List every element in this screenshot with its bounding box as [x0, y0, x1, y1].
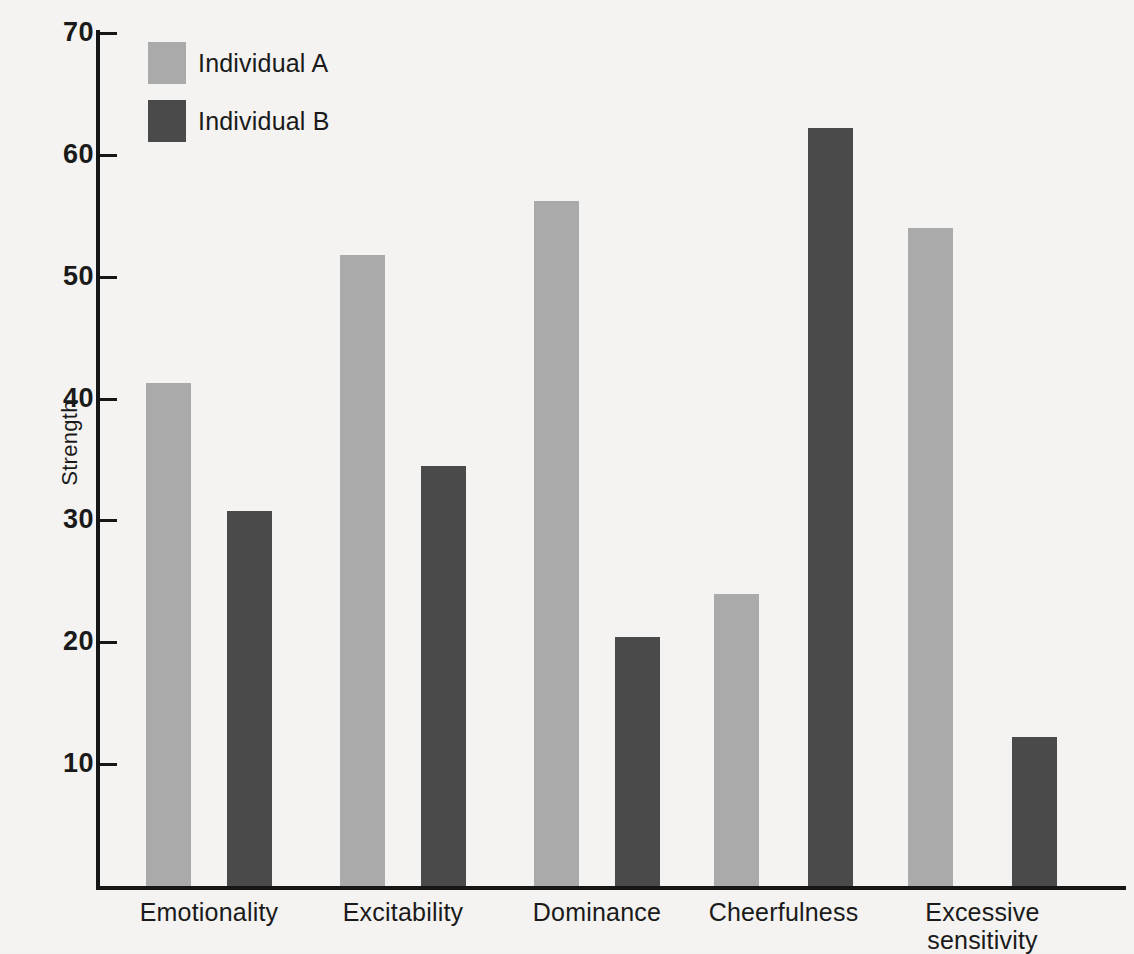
- x-axis-line: [96, 886, 1126, 890]
- legend-label: Individual A: [198, 49, 328, 78]
- legend-item-individual-a: Individual A: [148, 42, 330, 84]
- bar-excessive-sensitivity-individual-a: [908, 228, 953, 886]
- legend-swatch-icon: [148, 42, 186, 84]
- bar-dominance-individual-a: [534, 201, 579, 886]
- x-axis-label-line2: sensitivity: [863, 926, 1103, 954]
- y-axis-tick-label: 50: [34, 263, 94, 290]
- x-axis-label-excessive: Excessivesensitivity: [863, 898, 1103, 954]
- legend-label: Individual B: [198, 107, 330, 136]
- bar-emotionality-individual-b: [227, 511, 272, 886]
- bar-excessive-sensitivity-individual-b: [1012, 737, 1057, 886]
- legend-swatch-icon: [148, 100, 186, 142]
- y-axis-tick-label: 20: [34, 628, 94, 655]
- legend-item-individual-b: Individual B: [148, 100, 330, 142]
- plot-area: [100, 30, 1126, 886]
- y-axis-tick-label: 10: [34, 750, 94, 777]
- y-axis-tick-label: 60: [34, 141, 94, 168]
- bar-dominance-individual-b: [615, 637, 660, 886]
- chart-legend: Individual AIndividual B: [148, 42, 330, 158]
- y-axis-tick-label: 70: [34, 19, 94, 46]
- bar-cheerfulness-individual-a: [714, 594, 759, 886]
- bar-excitability-individual-a: [340, 255, 385, 886]
- bar-emotionality-individual-a: [146, 383, 191, 886]
- x-axis-label-line1: Excessive: [863, 898, 1103, 926]
- bar-excitability-individual-b: [421, 466, 466, 886]
- bar-cheerfulness-individual-b: [808, 128, 853, 886]
- y-axis-title: Strength: [57, 363, 83, 523]
